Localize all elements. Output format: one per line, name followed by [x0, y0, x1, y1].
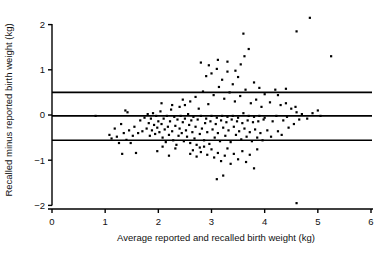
data-point	[199, 133, 201, 135]
data-point	[243, 127, 245, 129]
data-point	[234, 70, 236, 72]
data-point	[233, 153, 235, 155]
data-point	[224, 135, 226, 137]
data-point	[176, 118, 178, 120]
data-point	[184, 118, 186, 120]
data-point	[216, 117, 218, 119]
data-point	[114, 127, 116, 129]
data-point	[317, 109, 319, 111]
data-point	[213, 94, 215, 96]
data-point	[175, 144, 177, 146]
data-point	[226, 71, 228, 73]
data-point	[186, 136, 188, 138]
chart-canvas: 210−1−20123456 Average reported and reca…	[0, 0, 382, 254]
data-point	[293, 123, 295, 125]
data-point	[224, 155, 226, 157]
data-point	[157, 120, 159, 122]
x-tick-label: 3	[209, 216, 214, 227]
data-point	[233, 126, 235, 128]
data-point	[207, 103, 209, 105]
data-point	[201, 127, 203, 129]
data-point	[168, 155, 170, 157]
data-point	[232, 83, 234, 85]
data-point	[160, 102, 162, 104]
data-point	[217, 59, 219, 61]
data-point	[165, 141, 167, 143]
data-point	[237, 76, 239, 78]
data-point	[245, 161, 247, 163]
data-point	[242, 112, 244, 114]
data-point	[203, 146, 205, 148]
data-point	[213, 156, 215, 158]
data-point	[193, 137, 195, 139]
data-point	[121, 153, 123, 155]
data-point	[191, 131, 193, 133]
data-point	[259, 132, 261, 134]
bland-altman-chart: 210−1−20123456 Average reported and reca…	[0, 0, 382, 254]
data-point	[258, 87, 260, 89]
data-point	[237, 158, 239, 160]
data-point	[309, 17, 311, 19]
data-point	[196, 144, 198, 146]
data-point	[177, 135, 179, 137]
data-point	[230, 141, 232, 143]
data-point	[306, 118, 308, 120]
data-point	[159, 110, 161, 112]
data-point	[130, 142, 132, 144]
data-point	[236, 120, 238, 122]
data-point	[281, 134, 283, 136]
data-point	[210, 148, 212, 150]
data-point	[190, 119, 192, 121]
data-point	[146, 127, 148, 129]
data-point	[184, 104, 186, 106]
data-point	[227, 129, 229, 131]
data-point	[164, 128, 166, 130]
data-point	[185, 129, 187, 131]
x-axis-title: Average reported and recalled birth weig…	[117, 232, 315, 243]
data-point	[253, 81, 255, 83]
data-point	[244, 89, 246, 91]
data-point	[220, 160, 222, 162]
data-point	[264, 93, 266, 95]
data-point	[205, 75, 207, 77]
data-point	[270, 136, 272, 138]
data-point	[170, 108, 172, 110]
data-point	[220, 119, 222, 121]
data-point	[242, 33, 244, 35]
data-point	[330, 55, 332, 57]
data-point	[209, 120, 211, 122]
data-point	[171, 130, 173, 132]
data-point	[216, 68, 218, 70]
data-point	[216, 178, 218, 180]
data-point	[163, 118, 165, 120]
data-point	[277, 130, 279, 132]
data-point	[132, 135, 134, 137]
data-point	[277, 94, 279, 96]
data-point	[168, 134, 170, 136]
x-tick-label: 1	[103, 216, 108, 227]
data-point	[189, 100, 191, 102]
data-point	[205, 118, 207, 120]
data-point	[280, 104, 282, 106]
data-point	[110, 137, 112, 139]
tick-label-group: 210−1−20123456	[34, 19, 373, 227]
data-point	[151, 129, 153, 131]
data-point	[143, 117, 145, 119]
data-point	[123, 132, 125, 134]
data-point	[206, 154, 208, 156]
data-point	[158, 131, 160, 133]
data-point	[149, 135, 151, 137]
data-point	[252, 121, 254, 123]
data-point	[181, 132, 183, 134]
y-tick-label: 2	[40, 19, 45, 30]
data-point	[222, 127, 224, 129]
data-point	[208, 143, 210, 145]
data-point	[174, 125, 176, 127]
data-point	[285, 102, 287, 104]
data-point	[249, 154, 251, 156]
data-point	[128, 129, 130, 131]
data-point	[118, 142, 120, 144]
data-point	[272, 120, 274, 122]
data-point	[266, 129, 268, 131]
data-point	[311, 112, 313, 114]
